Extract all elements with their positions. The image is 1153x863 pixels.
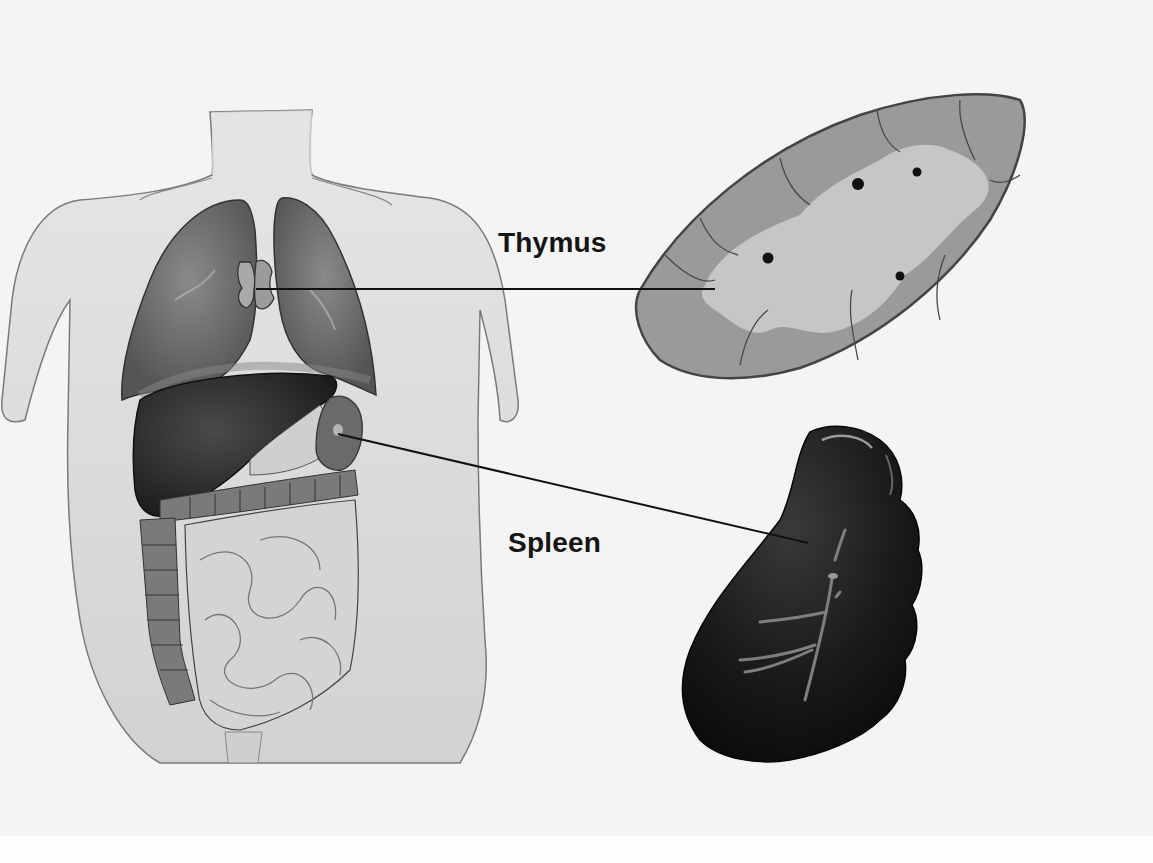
torso-figure — [2, 110, 519, 763]
diagram-canvas — [0, 0, 1153, 863]
thymic-corpuscle-1 — [852, 178, 864, 190]
thymic-corpuscle-2 — [913, 168, 922, 177]
thymic-corpuscle-4 — [896, 272, 905, 281]
spleen-label: Spleen — [508, 529, 601, 557]
spleen-enlarged-organ — [683, 426, 922, 762]
thymus-label: Thymus — [498, 229, 607, 257]
thymus-in-body — [238, 260, 274, 308]
thymic-corpuscle-3 — [763, 253, 774, 264]
spleen-enlarged-figure — [683, 426, 922, 762]
thymus-section-figure — [636, 94, 1025, 378]
